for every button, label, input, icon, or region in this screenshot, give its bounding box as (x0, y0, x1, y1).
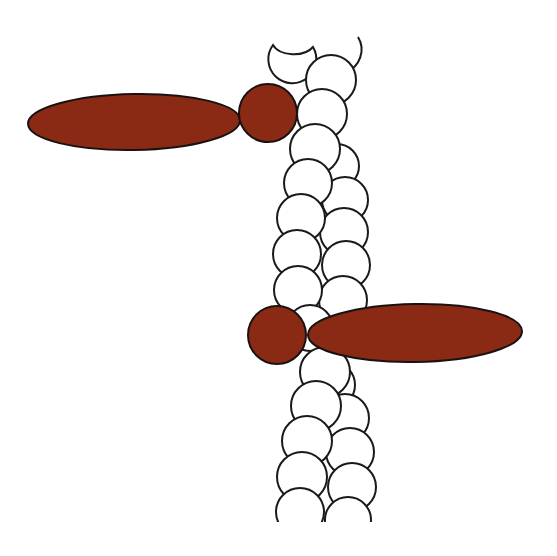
bound-head-upper-left (28, 84, 297, 152)
filament-diagram: Filament of white spherical subunits in … (0, 0, 557, 556)
head-circle (239, 84, 297, 142)
head-circle (248, 306, 306, 364)
head-ellipse (28, 92, 241, 152)
subunit (325, 497, 371, 543)
bound-head-lower-right (248, 302, 522, 364)
subunit (276, 488, 324, 536)
